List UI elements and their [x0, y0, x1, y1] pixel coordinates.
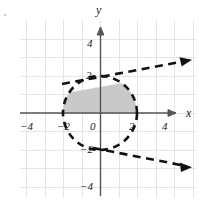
- x-tick-label-neg2: −2: [57, 121, 70, 132]
- y-axis-arrowhead: [97, 27, 104, 35]
- upper-dashed-ray: [62, 57, 192, 84]
- upper-ray-arrowhead: [180, 57, 193, 66]
- y-tick-label-pos4: 4: [87, 38, 93, 49]
- y-tick-label-neg2: −2: [80, 144, 93, 155]
- origin-label: 0: [90, 121, 96, 132]
- y-axis-title: y: [96, 4, 101, 16]
- y-tick-label-pos2: 2: [86, 70, 92, 81]
- x-axis-title: x: [186, 107, 191, 119]
- x-tick-label-pos2: 2: [129, 121, 135, 132]
- scan-artifact-speck: [4, 14, 6, 16]
- x-tick-label-neg4: −4: [20, 121, 33, 132]
- plot-canvas: [0, 0, 208, 204]
- x-tick-label-pos4: 4: [162, 121, 168, 132]
- y-tick-label-neg4: −4: [80, 181, 93, 192]
- coordinate-plot-figure: −4 −2 0 2 4 4 2 −2 −4 x y: [0, 0, 208, 204]
- lower-ray-arrowhead: [180, 162, 192, 172]
